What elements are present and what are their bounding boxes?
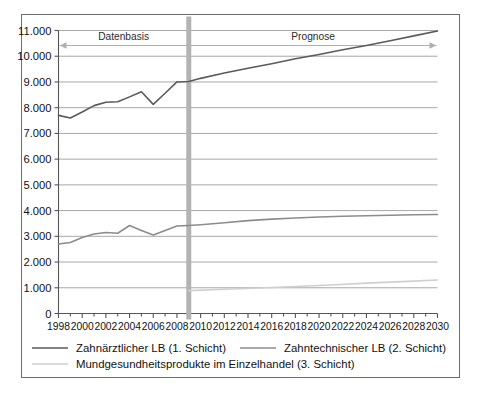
- x-axis-tick-label: 2020: [308, 321, 331, 332]
- x-axis-tick-label: 2008: [165, 321, 188, 332]
- legend-label-3: Mundgesundheitsprodukte im Einzelhandel …: [76, 358, 355, 370]
- x-axis-tick-label: 2016: [260, 321, 283, 332]
- chart-figure: DatenbasisPrognose 11.00010.0009.0008.00…: [0, 0, 482, 394]
- x-axis-tick-label: 2018: [284, 321, 307, 332]
- y-axis-tick-label: 9.000: [24, 76, 52, 88]
- x-axis-tick-label: 2002: [94, 321, 117, 332]
- y-axis-tick-label: 8.000: [24, 102, 52, 114]
- x-axis-tick-label: 2024: [355, 321, 378, 332]
- y-axis-tick-label: 0: [45, 308, 51, 320]
- annotation-label-prognose: Prognose: [291, 31, 335, 42]
- x-axis-tick-label: 2000: [71, 321, 94, 332]
- annotation-arrowhead-datenbasis: [60, 42, 67, 48]
- legend-group: Zahnärztlicher LB (1. Schicht)Zahntechni…: [32, 342, 446, 370]
- y-axis-tick-label: 10.000: [17, 50, 51, 62]
- annotation-arrowhead-prognose: [430, 42, 437, 48]
- x-axis-tick-label: 2022: [331, 321, 354, 332]
- y-axis-ticks-group: [55, 31, 59, 314]
- x-axis-tick-label: 2012: [213, 321, 236, 332]
- series-line-2: [59, 214, 438, 244]
- y-axis-tick-label: 5.000: [24, 179, 52, 191]
- x-axis-tick-label: 2014: [237, 321, 260, 332]
- x-axis-tick-label: 2006: [142, 321, 165, 332]
- forecast-divider-bar: [186, 17, 191, 320]
- x-axis-ticks-group: [59, 314, 438, 319]
- x-axis-tick-label: 1998: [47, 321, 70, 332]
- forecast-divider-group: [186, 17, 191, 320]
- annotation-label-datenbasis: Datenbasis: [98, 31, 149, 42]
- x-axis-tick-label: 2026: [379, 321, 402, 332]
- series-line-3: [189, 280, 438, 291]
- data-series-group: [59, 31, 438, 291]
- y-axis-tick-label: 6.000: [24, 153, 52, 165]
- legend-label-1: Zahnärztlicher LB (1. Schicht): [76, 342, 226, 354]
- y-axis-tick-label: 1.000: [24, 282, 52, 294]
- axes-group: [59, 31, 438, 314]
- y-axis-tick-label: 11.000: [18, 25, 51, 37]
- series-line-1: [59, 31, 438, 118]
- x-axis-tick-label: 2030: [426, 321, 449, 332]
- y-axis-labels-group: 11.00010.0009.0008.0007.0006.0005.0004.0…: [17, 25, 51, 320]
- y-axis-tick-label: 2.000: [24, 256, 52, 268]
- y-axis-tick-label: 4.000: [24, 205, 52, 217]
- x-axis-labels-group: 1998200020022004200620082010201220142016…: [47, 321, 449, 332]
- legend-label-2: Zahntechnischer LB (2. Schicht): [284, 342, 446, 354]
- x-axis-tick-label: 2010: [189, 321, 212, 332]
- line-chart-canvas: DatenbasisPrognose 11.00010.0009.0008.00…: [0, 0, 482, 394]
- x-axis-tick-label: 2028: [402, 321, 425, 332]
- x-axis-tick-label: 2004: [118, 321, 141, 332]
- y-axis-tick-label: 3.000: [24, 230, 52, 242]
- annotations-group: DatenbasisPrognose: [60, 31, 437, 49]
- y-axis-tick-label: 7.000: [24, 127, 52, 139]
